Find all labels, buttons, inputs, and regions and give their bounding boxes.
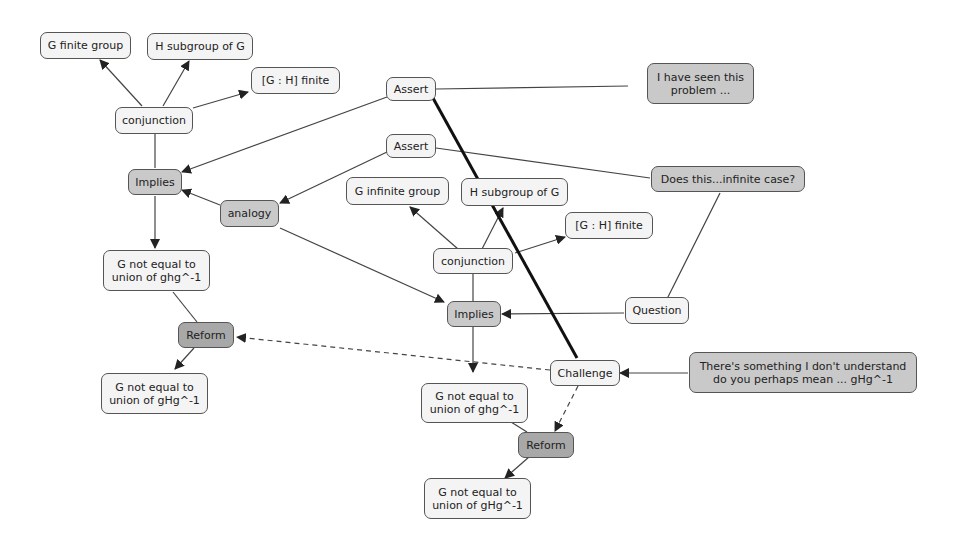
node-implies-left[interactable]: Implies: [128, 169, 182, 195]
node-g-finite-group[interactable]: G finite group: [40, 32, 131, 59]
node-reform-right[interactable]: Reform: [518, 432, 574, 458]
node-g-not-equal-ghg-left[interactable]: G not equal to union of ghg^-1: [103, 250, 210, 291]
node-analogy[interactable]: analogy: [220, 200, 279, 227]
node-g-not-equal-ghg-right[interactable]: G not equal to union of ghg^-1: [421, 383, 528, 423]
node-seen-problem[interactable]: I have seen this problem ...: [647, 63, 754, 104]
node-something-dont-understand[interactable]: There's something I don't understand do …: [689, 352, 917, 393]
node-conjunction-left[interactable]: conjunction: [115, 107, 193, 134]
node-does-this[interactable]: Does this...infinite case?: [651, 166, 805, 192]
node-g-not-equal-gHg-right[interactable]: G not equal to union of gHg^-1: [424, 478, 531, 519]
node-conjunction-right[interactable]: conjunction: [433, 248, 513, 274]
node-g-infinite-group[interactable]: G infinite group: [346, 177, 449, 205]
node-gh-finite-left[interactable]: [G : H] finite: [251, 67, 340, 94]
node-assert-top[interactable]: Assert: [386, 77, 436, 101]
node-g-not-equal-gHg-left[interactable]: G not equal to union of gHg^-1: [101, 373, 208, 414]
node-assert-second[interactable]: Assert: [386, 134, 436, 158]
node-question[interactable]: Question: [625, 297, 689, 324]
node-implies-right[interactable]: Implies: [447, 301, 501, 327]
node-reform-left[interactable]: Reform: [178, 322, 234, 348]
node-h-subgroup-left[interactable]: H subgroup of G: [147, 33, 253, 60]
node-h-subgroup-right[interactable]: H subgroup of G: [461, 178, 568, 206]
node-gh-finite-right[interactable]: [G : H] finite: [565, 212, 653, 239]
node-challenge[interactable]: Challenge: [550, 360, 620, 386]
